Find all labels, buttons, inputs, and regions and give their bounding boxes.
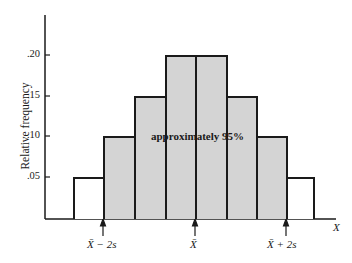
y-axis-label: Relative frequency bbox=[19, 71, 31, 181]
y-tick-label: .20 bbox=[12, 48, 40, 59]
histogram-bar-2 bbox=[103, 136, 136, 219]
marker-label-plus-2s: X̄ + 2s bbox=[267, 238, 296, 250]
histogram-bar-3 bbox=[134, 96, 167, 219]
histogram-bar-6 bbox=[226, 96, 258, 219]
marker-label-minus-2s: X̄ − 2s bbox=[87, 238, 116, 250]
center-annotation: approximately 95% bbox=[151, 130, 244, 142]
histogram-bar-7 bbox=[256, 136, 288, 219]
marker-label-mean: X̄ bbox=[190, 238, 197, 250]
histogram-bar-8 bbox=[286, 177, 315, 219]
histogram-bar-1 bbox=[73, 177, 105, 219]
x-axis-label: X bbox=[333, 221, 340, 233]
